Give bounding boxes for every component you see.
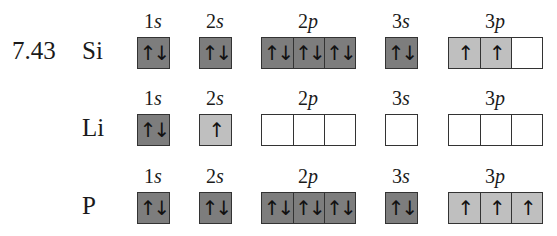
subshell-label: 2p [288, 10, 328, 33]
subshell-orbital-group: ↑↓ [385, 192, 418, 224]
subshell-number: 3 [392, 165, 402, 187]
orbital-box: ↑ [200, 115, 231, 145]
element-symbol: Si [82, 37, 103, 65]
subshell-label: 1s [133, 87, 173, 110]
subshell-label: 2p [288, 87, 328, 110]
orbital-box [480, 115, 511, 145]
subshell-number: 3 [392, 10, 402, 32]
orbital-box: ↑↓ [138, 38, 169, 68]
subshell-letter: s [216, 165, 224, 187]
subshell-label: 2p [288, 165, 328, 188]
problem-number: 7.43 [12, 37, 56, 65]
subshell-number: 2 [298, 10, 308, 32]
subshell-label: 3s [381, 165, 421, 188]
subshell-number: 3 [485, 165, 495, 187]
orbital-box: ↑ [511, 193, 542, 223]
subshell-number: 1 [144, 165, 154, 187]
subshell-letter: s [216, 10, 224, 32]
orbital-box [324, 115, 355, 145]
subshell-letter: p [495, 165, 505, 187]
subshell-letter: p [495, 10, 505, 32]
subshell-number: 2 [206, 87, 216, 109]
subshell-letter: s [402, 165, 410, 187]
orbital-box [386, 115, 417, 145]
subshell-orbital-group: ↑↑ [448, 37, 543, 69]
subshell-number: 3 [485, 87, 495, 109]
subshell-letter: s [216, 87, 224, 109]
subshell-orbital-group: ↑↓↑↓↑↓ [261, 37, 356, 69]
orbital-box [262, 115, 293, 145]
subshell-number: 1 [144, 87, 154, 109]
subshell-orbital-group: ↑↓ [137, 114, 170, 146]
subshell-label: 1s [133, 165, 173, 188]
subshell-letter: p [308, 10, 318, 32]
orbital-box: ↑↓ [386, 38, 417, 68]
subshell-orbital-group: ↑↑↑ [448, 192, 543, 224]
subshell-label: 3p [475, 10, 515, 33]
subshell-label: 3p [475, 87, 515, 110]
subshell-label: 2s [195, 87, 235, 110]
subshell-orbital-group: ↑↓ [137, 37, 170, 69]
subshell-number: 2 [206, 10, 216, 32]
orbital-box: ↑ [449, 38, 480, 68]
subshell-number: 2 [206, 165, 216, 187]
orbital-box: ↑↓ [200, 193, 231, 223]
subshell-orbital-group [448, 114, 543, 146]
orbital-box [449, 115, 480, 145]
subshell-number: 3 [392, 87, 402, 109]
orbital-box: ↑ [480, 38, 511, 68]
subshell-letter: p [308, 87, 318, 109]
subshell-orbital-group: ↑ [199, 114, 232, 146]
orbital-box: ↑ [449, 193, 480, 223]
subshell-orbital-group: ↑↓ [137, 192, 170, 224]
subshell-label: 3p [475, 165, 515, 188]
orbital-box [511, 115, 542, 145]
subshell-letter: p [495, 87, 505, 109]
subshell-label: 1s [133, 10, 173, 33]
subshell-number: 2 [298, 165, 308, 187]
subshell-label: 3s [381, 10, 421, 33]
orbital-box [293, 115, 324, 145]
subshell-orbital-group [261, 114, 356, 146]
orbital-box [511, 38, 542, 68]
subshell-number: 1 [144, 10, 154, 32]
subshell-orbital-group: ↑↓ [199, 192, 232, 224]
subshell-letter: s [154, 10, 162, 32]
subshell-number: 3 [485, 10, 495, 32]
orbital-box: ↑ [480, 193, 511, 223]
orbital-box: ↑↓ [262, 38, 293, 68]
subshell-letter: s [154, 87, 162, 109]
subshell-letter: s [402, 87, 410, 109]
subshell-number: 2 [298, 87, 308, 109]
subshell-letter: s [402, 10, 410, 32]
subshell-orbital-group: ↑↓ [199, 37, 232, 69]
orbital-box: ↑↓ [262, 193, 293, 223]
orbital-box: ↑↓ [324, 38, 355, 68]
subshell-letter: s [154, 165, 162, 187]
orbital-box: ↑↓ [200, 38, 231, 68]
subshell-label: 2s [195, 165, 235, 188]
subshell-orbital-group [385, 114, 418, 146]
element-symbol: P [82, 192, 96, 220]
subshell-letter: p [308, 165, 318, 187]
subshell-orbital-group: ↑↓ [385, 37, 418, 69]
subshell-orbital-group: ↑↓↑↓↑↓ [261, 192, 356, 224]
subshell-label: 3s [381, 87, 421, 110]
element-symbol: Li [82, 114, 104, 142]
orbital-box: ↑↓ [293, 193, 324, 223]
orbital-box: ↑↓ [386, 193, 417, 223]
orbital-box: ↑↓ [138, 115, 169, 145]
subshell-label: 2s [195, 10, 235, 33]
orbital-box: ↑↓ [324, 193, 355, 223]
orbital-box: ↑↓ [293, 38, 324, 68]
orbital-box: ↑↓ [138, 193, 169, 223]
